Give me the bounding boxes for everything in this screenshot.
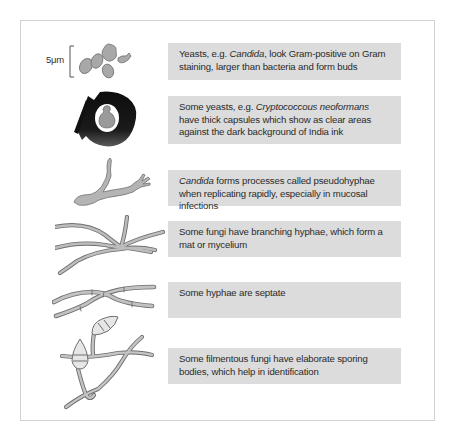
scale-bar-icon [70, 46, 74, 77]
india-ink-capsule-illustration [72, 88, 144, 152]
sporing-bodies-illustration [58, 315, 158, 413]
scale-bar-label: 5μm [46, 54, 64, 65]
caption-septate: Some hyphae are septate [168, 282, 401, 318]
caption-yeasts: Yeasts, e.g. Candida, look Gram-positive… [168, 43, 401, 80]
septate-hyphae-illustration [52, 280, 164, 320]
caption-sporing: Some filmentous fungi have elaborate spo… [168, 348, 401, 384]
pseudohyphae-illustration [70, 156, 160, 210]
branching-hyphae-illustration [55, 215, 167, 277]
caption-pseudohyphae: Candida forms processes called pseudohyp… [168, 170, 401, 206]
caption-branching: Some fungi have branching hyphae, which … [168, 221, 401, 257]
caption-capsule: Some yeasts, e.g. Cryptococcous neoforma… [168, 96, 401, 144]
sporangium-upper [92, 316, 118, 335]
sporangium-lower [72, 339, 88, 369]
yeast-cells-illustration [68, 36, 148, 86]
